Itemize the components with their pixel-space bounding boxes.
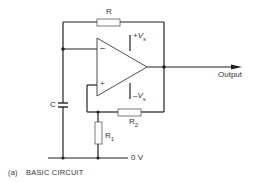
- label-r1-sub: 1: [111, 136, 114, 142]
- caption-index: (a): [8, 168, 18, 177]
- label-ground: 0 V: [131, 154, 143, 162]
- label-pos-supply: +Vs: [133, 32, 146, 42]
- junction-dot: [96, 156, 99, 159]
- caption-text: BASIC CIRCUIT: [26, 168, 84, 177]
- junction-dot: [162, 65, 166, 69]
- label-r2: R2: [129, 118, 138, 128]
- label-pos-supply-sub: s: [143, 36, 146, 42]
- label-r: R: [106, 8, 112, 16]
- resistor-r1: [95, 122, 102, 144]
- label-c: C: [50, 101, 56, 109]
- circuit-schematic: [0, 0, 260, 182]
- junction-dot: [96, 110, 99, 113]
- label-pos-supply-text: +V: [133, 31, 143, 40]
- resistor-r: [97, 19, 120, 26]
- junction-dot: [61, 156, 64, 159]
- label-neg-supply-text: –V: [133, 91, 143, 100]
- junction-dot: [61, 47, 65, 51]
- label-r1: R1: [105, 132, 114, 142]
- label-neg-supply: –Vs: [133, 92, 146, 102]
- label-noninverting-input: +: [100, 80, 105, 88]
- label-output: Output: [218, 71, 242, 79]
- label-r2-sub: 2: [135, 122, 138, 128]
- output-arrow-icon: [231, 65, 242, 70]
- resistor-r2: [118, 109, 141, 116]
- label-inverting-input: –: [100, 44, 105, 53]
- label-neg-supply-sub: s: [143, 96, 146, 102]
